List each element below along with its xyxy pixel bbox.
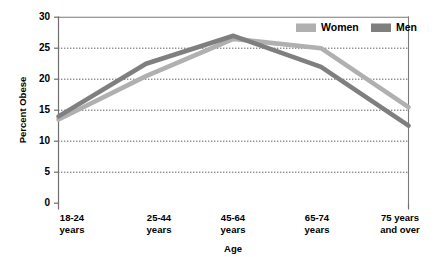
legend-swatch-women	[296, 24, 316, 33]
chart-container: 30 25 20 15 10 5 0 Percent Obese Women M…	[0, 0, 445, 257]
x-tick-label-2-line2: years	[221, 224, 246, 235]
x-tick-label-2-line1: 45-64	[221, 212, 246, 223]
x-tick-label-0-line2: years	[60, 224, 85, 235]
legend-swatch-men	[371, 24, 391, 33]
x-axis-title: Age	[224, 243, 242, 254]
y-tick-label-5: 5	[44, 166, 50, 177]
y-axis-title: Percent Obese	[17, 77, 28, 144]
y-tick-label-25: 25	[39, 42, 51, 53]
x-tick-label-3-line2: years	[305, 224, 330, 235]
y-tick-label-15: 15	[39, 104, 51, 115]
y-tick-label-30: 30	[39, 11, 51, 22]
x-tick-label-3-line1: 65-74	[305, 212, 330, 223]
y-tick-label-20: 20	[39, 73, 51, 84]
legend-label-men: Men	[396, 21, 417, 33]
y-tick-label-0: 0	[44, 197, 50, 208]
y-tick-label-10: 10	[39, 135, 51, 146]
line-chart: 30 25 20 15 10 5 0 Percent Obese Women M…	[0, 0, 445, 257]
legend-label-women: Women	[321, 21, 359, 33]
x-tick-label-4-line2: and over	[380, 224, 420, 235]
x-tick-label-4-line1: 75 years	[381, 212, 419, 223]
x-tick-label-1-line1: 25-44	[147, 212, 172, 223]
x-tick-label-1-line2: years	[147, 224, 172, 235]
x-tick-label-0-line1: 18-24	[60, 212, 85, 223]
